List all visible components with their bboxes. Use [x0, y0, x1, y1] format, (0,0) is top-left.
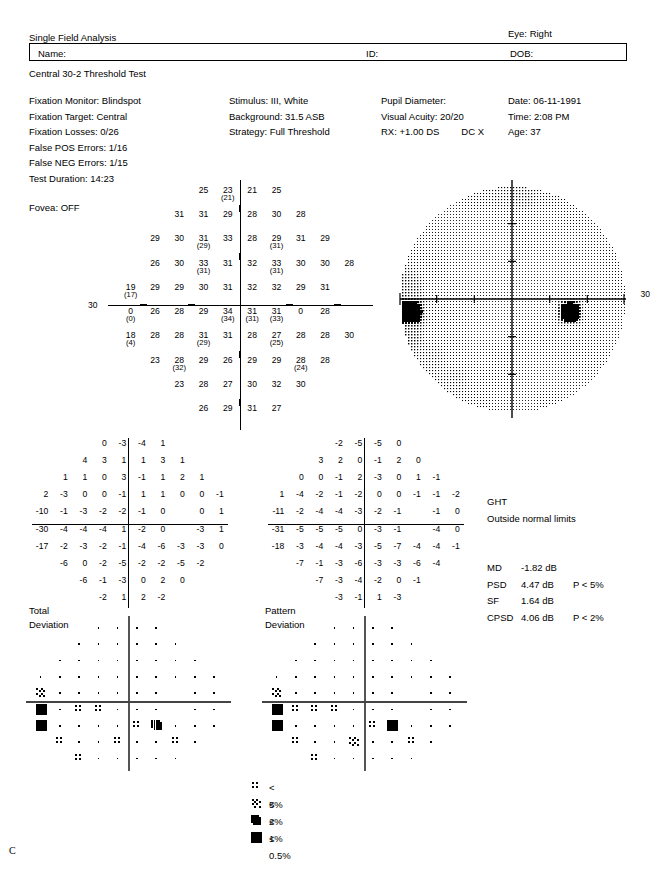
prob-symbol-normal [406, 670, 419, 683]
prob-symbol-normal [329, 621, 342, 634]
prob-symbol-normal [93, 637, 106, 650]
prob-symbol-normal [189, 703, 202, 716]
total-deviation-probability-plot [22, 616, 237, 776]
threshold-value: 28 [292, 209, 310, 219]
deviation-value: 1 [129, 489, 146, 499]
deviation-value: -2 [148, 592, 165, 602]
prob-symbol-normal [189, 686, 202, 699]
prob-symbol-normal [444, 703, 457, 716]
deviation-value: -1 [384, 506, 401, 516]
prob-symbol-normal [131, 686, 144, 699]
deviation-value: -2 [306, 489, 323, 499]
prob-symbol-normal [73, 719, 86, 732]
prob-symbol-normal [93, 670, 106, 683]
threshold-retest-value: (33) [265, 314, 287, 323]
deviation-value: -5 [365, 541, 382, 551]
threshold-value: 26 [146, 258, 164, 268]
patient-age: Age: 37 [508, 124, 581, 140]
prob-symbol-normal [386, 621, 399, 634]
deviation-value: -1 [423, 489, 440, 499]
total-deviation-numeric: 0-3-414311311103-11212-300-11100-1-10-1-… [22, 438, 232, 608]
deviation-value: -3 [326, 592, 343, 602]
deviation-value: 4 [70, 455, 87, 465]
prob-symbol-normal [73, 654, 86, 667]
deviation-value: -1 [109, 541, 126, 551]
deviation-value: -2 [287, 506, 304, 516]
deviation-value: 0 [168, 489, 185, 499]
vertical-meridian [364, 616, 366, 771]
prob-symbol-p5 [406, 735, 419, 748]
prob-symbol-normal [150, 686, 163, 699]
deviation-value: -2 [90, 592, 107, 602]
prob-symbol-normal [73, 670, 86, 683]
prob-symbol-normal [189, 654, 202, 667]
prob-symbol-normal [189, 670, 202, 683]
prob-symbol-p2 [35, 686, 48, 699]
prob-symbol-p2 [250, 797, 263, 810]
prob-symbol-normal [425, 654, 438, 667]
prob-symbol-normal [367, 735, 380, 748]
prob-symbol-normal [329, 719, 342, 732]
prob-symbol-p05 [386, 719, 399, 732]
prob-symbol-normal [348, 703, 361, 716]
threshold-retest-value: (31) [265, 241, 287, 250]
threshold-value: 25 [267, 185, 285, 195]
axis-tick [140, 304, 147, 305]
deviation-value: -2 [187, 558, 204, 568]
deviation-value: -1 [326, 489, 343, 499]
prob-symbol-p5 [112, 735, 125, 748]
prob-symbol-p05 [250, 831, 263, 844]
deviation-value: 0 [168, 575, 185, 585]
deviation-value: 1 [404, 472, 421, 482]
deviation-value: -4 [404, 541, 421, 551]
global-index-value: 4.47 dB [521, 577, 573, 594]
deviation-value: 0 [345, 455, 362, 465]
prob-symbol-normal [54, 654, 67, 667]
prob-symbol-normal [425, 686, 438, 699]
axis-tick [286, 304, 293, 305]
reliability-params: Fixation Monitor: Blindspot Fixation Tar… [29, 93, 141, 186]
threshold-value: 32 [243, 282, 261, 292]
prob-symbol-normal [150, 654, 163, 667]
prob-symbol-normal [208, 703, 221, 716]
visual-acuity: Visual Acuity: 20/20 [381, 109, 484, 125]
prob-symbol-normal [386, 735, 399, 748]
prob-symbol-p5 [290, 703, 303, 716]
threshold-value: 28 [316, 306, 334, 316]
prob-symbol-normal [367, 686, 380, 699]
deviation-value: -3 [109, 575, 126, 585]
threshold-value: 28 [316, 330, 334, 340]
greyscale-map: 30 [396, 178, 628, 420]
prob-symbol-normal [93, 752, 106, 765]
prob-symbol-normal [290, 654, 303, 667]
threshold-value: 26 [219, 355, 237, 365]
rx-sphere: RX: +1.00 DS [381, 126, 439, 137]
prob-symbol-normal [425, 670, 438, 683]
prob-symbol-normal [189, 735, 202, 748]
axis-tick [334, 304, 341, 305]
deviation-value: -10 [31, 506, 48, 516]
deviation-value: -1 [404, 489, 421, 499]
prob-symbol-normal [329, 752, 342, 765]
axis-tick [239, 399, 240, 406]
prob-symbol-normal [386, 752, 399, 765]
threshold-retest-value: (32) [168, 363, 190, 372]
dob-field-label: DOB: [510, 48, 533, 59]
threshold-value: 30 [243, 379, 261, 389]
rx-cylinder: DC X [461, 126, 484, 137]
prob-symbol-normal [309, 719, 322, 732]
prob-symbol-normal [329, 686, 342, 699]
deviation-value: -2 [90, 506, 107, 516]
threshold-value: 25 [195, 185, 213, 195]
deviation-value: -30 [31, 524, 48, 534]
deviation-value: 2 [168, 472, 185, 482]
global-indices: MD-1.82 dBPSD4.47 dBP < 5%SF1.64 dBCPSD4… [487, 560, 604, 626]
prob-symbol-p05 [35, 703, 48, 716]
deviation-value: -2 [148, 558, 165, 568]
greyscale-axis-label: 30 [641, 289, 650, 299]
prob-symbol-p5 [93, 703, 106, 716]
deviation-value: -4 [326, 506, 343, 516]
prob-symbol-p5 [309, 752, 322, 765]
threshold-value: 30 [267, 209, 285, 219]
prob-symbol-normal [406, 752, 419, 765]
